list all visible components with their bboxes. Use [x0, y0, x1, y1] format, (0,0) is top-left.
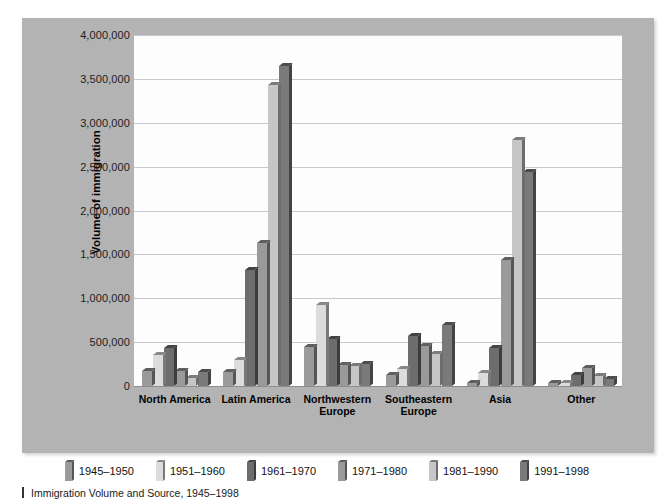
figure-caption: Immigration Volume and Source, 1945–1998 — [22, 487, 662, 499]
legend-label: 1981–1990 — [443, 465, 498, 477]
y-axis-tick-label: 0 — [124, 380, 130, 392]
bar-side — [152, 369, 155, 386]
bar-group — [459, 35, 540, 386]
y-axis-tick-label: 1,000,000 — [80, 292, 130, 304]
chart-legend: 1945–19501951–19601961–19701971–19801981… — [22, 458, 654, 484]
plot-area — [134, 35, 622, 386]
legend-item[interactable]: 1971–1980 — [338, 462, 407, 481]
bar-face — [257, 243, 267, 386]
bar — [442, 325, 452, 386]
y-axis-tick-label: 2,000,000 — [80, 205, 130, 217]
legend-swatch-face — [65, 462, 72, 481]
bar-side — [522, 138, 525, 386]
legend-swatch-side — [254, 460, 256, 481]
bar-face — [142, 371, 152, 386]
bar-side — [314, 344, 317, 386]
bar-side — [499, 346, 502, 386]
legend-swatch — [65, 462, 72, 481]
bar-side — [407, 367, 410, 386]
y-axis-tick-label: 2,500,000 — [80, 161, 130, 173]
bar-face — [223, 372, 233, 386]
y-axis-tick-label: 4,000,000 — [80, 29, 130, 41]
legend-swatch-side — [163, 460, 165, 481]
bar — [142, 371, 152, 386]
bar-face — [548, 383, 558, 386]
bar-side — [429, 343, 432, 386]
legend-swatch-top — [65, 460, 75, 462]
bar-side — [255, 268, 258, 386]
y-axis-tick-label: 500,000 — [90, 336, 130, 348]
bar-side — [592, 366, 595, 386]
legend-label: 1991–1998 — [534, 465, 589, 477]
legend-label: 1951–1960 — [170, 465, 225, 477]
bar-group — [215, 35, 296, 386]
legend-swatch-face — [156, 462, 163, 481]
chart-frame: Volume of immigration 0500,0001,000,0001… — [22, 18, 654, 453]
bar-side — [267, 240, 270, 386]
y-axis-ticks: 0500,0001,000,0001,500,0002,000,0002,500… — [40, 35, 130, 386]
bar-side — [511, 257, 514, 386]
caption-marker-bar — [22, 487, 24, 498]
bar-side — [174, 346, 177, 386]
bar-side — [533, 169, 536, 386]
caption-text: Immigration Volume and Source, 1945–1998 — [31, 487, 239, 499]
bar-face — [442, 325, 452, 386]
legend-swatch — [429, 462, 436, 481]
bar — [467, 383, 477, 387]
bar-group — [541, 35, 622, 386]
legend-item[interactable]: 1951–1960 — [156, 462, 225, 481]
bar-side — [233, 369, 236, 386]
bar-group — [134, 35, 215, 386]
bar-side — [370, 362, 373, 386]
legend-swatch-side — [345, 460, 347, 481]
bar-face — [316, 305, 326, 386]
bar-side — [163, 353, 166, 386]
bar-group — [297, 35, 378, 386]
chart-figure: Volume of immigration 0500,0001,000,0001… — [0, 0, 672, 499]
bar-side — [278, 83, 281, 386]
bar — [223, 372, 233, 386]
bar-group — [378, 35, 459, 386]
bar — [316, 305, 326, 386]
legend-swatch — [247, 462, 254, 481]
bar-side — [359, 363, 362, 386]
bar — [501, 260, 511, 386]
bar-face — [467, 383, 477, 387]
bar — [386, 375, 396, 386]
legend-swatch-face — [247, 462, 254, 481]
legend-item[interactable]: 1981–1990 — [429, 462, 498, 481]
y-axis-tick-label: 1,500,000 — [80, 248, 130, 260]
legend-swatch — [520, 462, 527, 481]
legend-item[interactable]: 1991–1998 — [520, 462, 589, 481]
bar-side — [418, 333, 421, 386]
bar — [257, 243, 267, 386]
bar-face — [560, 383, 570, 387]
legend-swatch-face — [338, 462, 345, 481]
bar-side — [337, 336, 340, 386]
legend-item[interactable]: 1961–1970 — [247, 462, 316, 481]
y-axis-tick-label: 3,500,000 — [80, 73, 130, 85]
bar-side — [488, 370, 491, 386]
legend-label: 1961–1970 — [261, 465, 316, 477]
bar-side — [348, 362, 351, 386]
legend-swatch — [338, 462, 345, 481]
bar-face — [386, 375, 396, 386]
legend-swatch-face — [429, 462, 436, 481]
bar-face — [501, 260, 511, 386]
bar-side — [326, 303, 329, 386]
legend-swatch-side — [72, 460, 74, 481]
y-axis-tick-label: 3,000,000 — [80, 117, 130, 129]
legend-swatch-side — [527, 460, 529, 481]
bar-side — [185, 369, 188, 386]
legend-label: 1945–1950 — [79, 465, 134, 477]
bar — [304, 347, 314, 386]
x-axis-category-label: Other — [529, 393, 634, 405]
bar-side — [452, 322, 455, 386]
bar — [560, 383, 570, 387]
legend-swatch-side — [436, 460, 438, 481]
legend-item[interactable]: 1945–1950 — [65, 462, 134, 481]
bar-side — [289, 63, 292, 386]
legend-swatch — [156, 462, 163, 481]
bar-side — [244, 357, 247, 386]
legend-label: 1971–1980 — [352, 465, 407, 477]
